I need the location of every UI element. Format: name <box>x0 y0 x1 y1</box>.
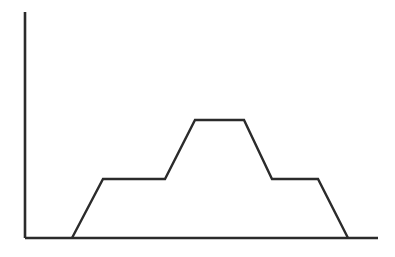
chart-figure <box>0 0 395 257</box>
line-chart-canvas <box>0 0 395 257</box>
chart-background <box>0 0 395 257</box>
